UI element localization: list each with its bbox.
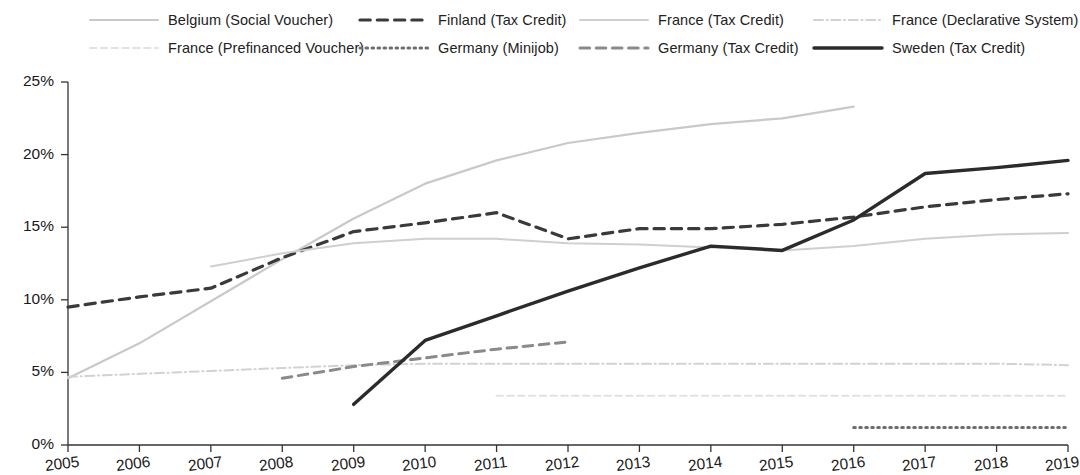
legend-label: France (Declarative System) [892, 12, 1078, 28]
legend-swatch-icon [812, 40, 884, 56]
x-tick-label: 2010 [401, 453, 437, 475]
legend-item[interactable]: Finland (Tax Credit) [358, 10, 567, 30]
y-tick-label: 15% [0, 217, 54, 235]
legend-label: Belgium (Social Voucher) [168, 12, 333, 28]
x-tick-label: 2011 [473, 453, 508, 475]
series-line-0 [68, 107, 854, 379]
x-tick-label: 2017 [901, 453, 937, 475]
x-tick-label: 2013 [615, 453, 651, 475]
legend-item[interactable]: France (Tax Credit) [578, 10, 784, 30]
x-tick-label: 2009 [330, 453, 366, 475]
plot-svg [0, 60, 1075, 470]
x-tick-label: 2008 [258, 453, 294, 475]
x-tick-label: 2014 [687, 453, 723, 475]
legend-item[interactable]: Belgium (Social Voucher) [88, 10, 333, 30]
legend-item[interactable]: France (Prefinanced Voucher) [88, 38, 364, 58]
legend-label: France (Prefinanced Voucher) [168, 40, 364, 56]
chart-legend: Belgium (Social Voucher)Finland (Tax Cre… [0, 0, 1075, 62]
legend-item[interactable]: Germany (Tax Credit) [578, 38, 799, 58]
legend-label: France (Tax Credit) [658, 12, 784, 28]
legend-item[interactable]: Sweden (Tax Credit) [812, 38, 1025, 58]
y-tick-label: 20% [0, 145, 54, 163]
legend-label: Germany (Tax Credit) [658, 40, 799, 56]
legend-swatch-icon [578, 40, 650, 56]
y-tick-label: 0% [0, 435, 54, 453]
x-tick-label: 2006 [115, 453, 151, 475]
x-tick-label: 2019 [1044, 453, 1080, 475]
series-line-6 [282, 342, 568, 378]
y-tick-label: 5% [0, 362, 54, 380]
legend-swatch-icon [88, 12, 160, 28]
legend-swatch-icon [358, 40, 430, 56]
legend-label: Sweden (Tax Credit) [892, 40, 1025, 56]
legend-item[interactable]: France (Declarative System) [812, 10, 1078, 30]
x-tick-label: 2005 [44, 453, 80, 475]
x-tick-label: 2018 [973, 453, 1009, 475]
plot-area: 0%5%10%15%20%25%200520062007200820092010… [0, 60, 1075, 470]
legend-item[interactable]: Germany (Minijob) [358, 38, 559, 58]
legend-swatch-icon [358, 12, 430, 28]
series-line-7 [354, 160, 1068, 404]
x-tick-label: 2012 [544, 453, 580, 475]
legend-swatch-icon [812, 12, 884, 28]
y-tick-label: 10% [0, 290, 54, 308]
legend-swatch-icon [578, 12, 650, 28]
legend-swatch-icon [88, 40, 160, 56]
x-tick-label: 2016 [830, 453, 866, 475]
legend-label: Finland (Tax Credit) [438, 12, 567, 28]
series-line-3 [68, 364, 1068, 377]
legend-label: Germany (Minijob) [438, 40, 559, 56]
x-tick-label: 2015 [758, 453, 794, 475]
x-tick-label: 2007 [187, 453, 223, 475]
y-tick-label: 25% [0, 72, 54, 90]
